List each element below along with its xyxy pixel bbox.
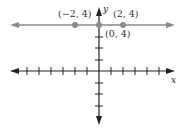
y-axis-up-arrow-icon — [96, 7, 102, 16]
x-axis-left-arrow-icon — [10, 68, 19, 74]
x-axis: x — [10, 67, 176, 85]
coordinate-plane: x y (−2, 4) (2, 4) (0, 4) — [0, 0, 185, 134]
line-right-arrow-icon — [166, 22, 175, 28]
x-axis-label: x — [171, 75, 176, 85]
point-label-neg2-4: (−2, 4) — [58, 8, 92, 19]
y-axis: y — [95, 4, 109, 125]
x-axis-right-arrow-icon — [166, 68, 175, 74]
point-neg2-4 — [72, 22, 78, 28]
point-label-2-4: (2, 4) — [113, 8, 139, 19]
point-0-4 — [96, 22, 102, 28]
y-axis-label: y — [102, 4, 109, 14]
line-left-arrow-icon — [10, 22, 19, 28]
line-y-equals-4 — [10, 22, 175, 28]
point-label-0-4: (0, 4) — [105, 28, 131, 39]
y-axis-down-arrow-icon — [96, 116, 102, 125]
